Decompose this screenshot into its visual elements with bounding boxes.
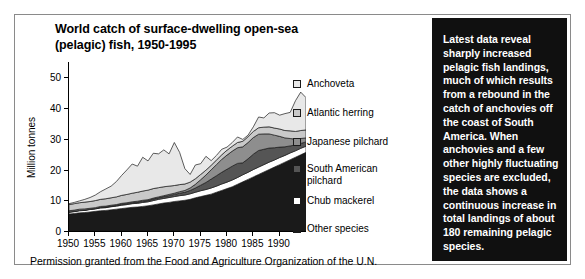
figure-root: World catch of surface-dwelling open-sea… <box>0 0 585 279</box>
legend-swatch-icon <box>293 80 301 88</box>
x-tick-mark <box>173 232 174 236</box>
chart-title: World catch of surface-dwelling open-sea… <box>55 22 385 53</box>
commentary-panel: Latest data reveal sharply increased pel… <box>432 18 567 261</box>
y-tick-mark <box>64 108 68 109</box>
y-tick-mark <box>64 77 68 78</box>
footer-credit: Permission granted from the Food and Agr… <box>30 255 377 267</box>
x-tick-label: 1975 <box>189 238 211 249</box>
plot-area: 01020304050 1950195519601965197019751980… <box>68 62 306 232</box>
y-tick-mark <box>64 139 68 140</box>
legend-item-label: Other species <box>307 223 369 235</box>
commentary-text: Latest data reveal sharply increased pel… <box>443 33 559 254</box>
x-tick-label: 1960 <box>110 238 132 249</box>
stacked-area-plot <box>69 62 306 231</box>
legend-swatch-icon <box>293 138 301 146</box>
y-axis-title-label: Million tonnes <box>27 116 38 177</box>
y-tick-label: 0 <box>55 226 61 237</box>
x-tick-label: 1950 <box>57 238 79 249</box>
legend-item-5[interactable]: Other species <box>293 223 369 235</box>
legend-item-label: Atlantic herring <box>307 107 374 119</box>
x-tick-mark <box>200 232 201 236</box>
legend-swatch-icon <box>293 109 301 117</box>
x-tick-mark <box>252 232 253 236</box>
y-tick-label: 20 <box>50 164 61 175</box>
legend-item-4[interactable]: Chub mackerel <box>293 195 374 207</box>
x-tick-mark <box>94 232 95 236</box>
legend-item-label: Japanese pilchard <box>307 136 388 148</box>
x-tick-mark <box>121 232 122 236</box>
y-tick-mark <box>64 200 68 201</box>
x-tick-mark <box>68 232 69 236</box>
y-tick-label: 40 <box>50 103 61 114</box>
x-axis-spine <box>68 231 306 232</box>
legend-item-3[interactable]: South American pilchard <box>293 163 378 186</box>
legend-item-1[interactable]: Atlantic herring <box>293 107 374 119</box>
x-tick-label: 1965 <box>136 238 158 249</box>
legend-swatch-icon <box>293 165 301 173</box>
x-tick-label: 1955 <box>83 238 105 249</box>
legend-swatch-icon <box>293 197 301 205</box>
x-tick-label: 1980 <box>215 238 237 249</box>
legend-swatch-icon <box>293 225 301 233</box>
x-tick-mark <box>279 232 280 236</box>
y-tick-label: 10 <box>50 195 61 206</box>
y-tick-label: 30 <box>50 133 61 144</box>
x-tick-label: 1990 <box>268 238 290 249</box>
x-tick-label: 1970 <box>162 238 184 249</box>
chart-title-line-1: World catch of surface-dwelling open-sea <box>55 22 385 38</box>
legend-item-label: Chub mackerel <box>307 195 374 207</box>
legend-item-0[interactable]: Anchoveta <box>293 78 354 90</box>
legend-item-label: Anchoveta <box>307 78 354 90</box>
x-tick-label: 1985 <box>241 238 263 249</box>
x-tick-mark <box>226 232 227 236</box>
chart-title-line-2: (pelagic) fish, 1950-1995 <box>55 38 385 54</box>
y-tick-label: 50 <box>50 72 61 83</box>
legend-item-2[interactable]: Japanese pilchard <box>293 136 388 148</box>
x-tick-mark <box>147 232 148 236</box>
y-tick-mark <box>64 170 68 171</box>
legend-item-label: South American pilchard <box>307 163 378 186</box>
y-axis-title: Million tonnes <box>25 62 39 232</box>
